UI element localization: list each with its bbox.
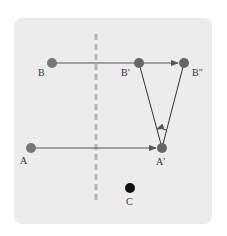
label-c: C [126,197,133,207]
segment-a1-b2 [162,63,184,148]
point-a-prime [157,143,167,153]
point-b-double-prime [179,58,189,68]
label-a-prime: A′ [156,157,165,167]
label-a: A [20,156,27,166]
point-a [26,143,36,153]
transformation-diagram [0,0,227,236]
point-b-prime [134,58,144,68]
label-b-prime: B′ [121,68,130,78]
point-c [125,183,135,193]
segment-a1-b1 [139,63,162,148]
label-b-double-prime: B″ [192,68,203,78]
rotation-arc [157,128,166,130]
label-b: B [38,68,45,78]
point-b [47,58,57,68]
